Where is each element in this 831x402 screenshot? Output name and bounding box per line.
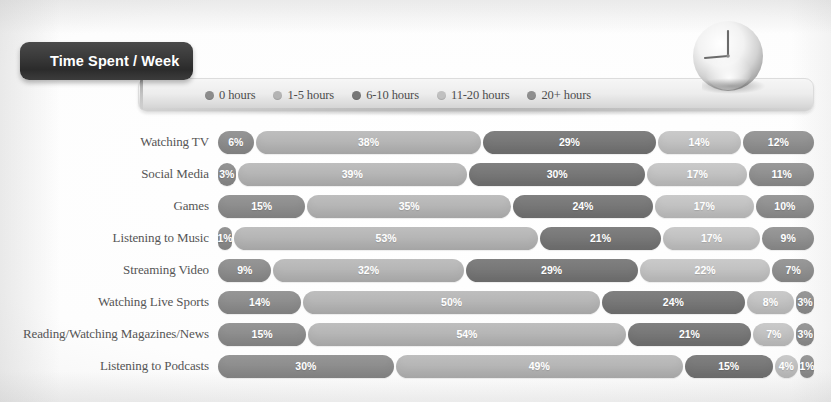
bar-segment-value: 30% [295,360,316,372]
bar-segment-value: 24% [663,296,684,308]
bar-segment-value: 1% [799,360,814,372]
legend-label: 20+ hours [541,88,591,103]
bar-segment[interactable]: 7% [753,323,794,346]
bar-segment[interactable]: 17% [647,163,747,186]
legend-item[interactable]: 20+ hours [527,88,591,103]
legend-item[interactable]: 1-5 hours [273,88,334,103]
bar-segment-value: 21% [679,328,700,340]
bar-segment[interactable]: 21% [540,227,661,250]
bar-segment[interactable]: 54% [308,323,626,346]
stacked-bar-chart: 0 hours1-5 hours6-10 hours11-20 hours20+… [0,0,831,402]
bar-segment-value: 29% [541,264,562,276]
bar-segment[interactable]: 50% [303,291,600,314]
bar-segment-value: 11% [771,168,791,180]
bar-segment[interactable]: 1% [218,227,232,250]
bar-segment-value: 15% [251,200,272,212]
chart-legend: 0 hours1-5 hours6-10 hours11-20 hours20+… [205,86,591,104]
chart-rows: Watching TV6%38%29%14%12%Social Media3%3… [0,126,831,382]
page-title: Time Spent / Week [20,53,179,69]
bar-segment-value: 14% [689,136,710,148]
bar-segment[interactable]: 15% [218,323,306,346]
bar-segment[interactable]: 22% [640,259,771,282]
bar-segment-value: 10% [774,200,795,212]
bar-segment[interactable]: 3% [218,163,236,186]
bar-segment-value: 30% [547,168,568,180]
bar-segment-value: 15% [718,360,739,372]
row-label: Reading/Watching Magazines/News [0,326,218,342]
bar-segment[interactable]: 38% [256,131,482,154]
bar-segment-value: 3% [798,328,813,340]
bar-segment[interactable]: 10% [756,195,814,218]
bar-segment[interactable]: 15% [218,195,305,218]
bar-segment-value: 1% [217,232,232,244]
legend-item[interactable]: 11-20 hours [437,88,510,103]
bar-segment[interactable]: 8% [747,291,795,314]
bar-segment-value: 7% [766,328,781,340]
title-tab-connector [140,78,143,110]
bar-segment[interactable]: 14% [658,131,741,154]
bar-segment-value: 17% [687,168,708,180]
bar-segment-value: 17% [694,200,715,212]
stacked-bar: 1%53%21%17%9% [218,227,814,250]
bar-segment[interactable]: 9% [218,259,271,282]
legend-item[interactable]: 0 hours [205,88,255,103]
bar-segment[interactable]: 1% [800,355,814,378]
bar-segment[interactable]: 35% [307,195,511,218]
legend-swatch-icon [527,91,536,100]
bar-segment[interactable]: 15% [685,355,773,378]
chart-title-tab: Time Spent / Week [20,42,193,80]
bar-segment-value: 9% [781,232,796,244]
row-label: Watching Live Sports [0,294,218,310]
bar-segment-value: 54% [456,328,477,340]
bar-segment[interactable]: 32% [273,259,463,282]
row-label: Listening to Podcasts [0,358,218,374]
row-label: Streaming Video [0,262,218,278]
bar-segment[interactable]: 49% [396,355,683,378]
bar-segment-value: 9% [237,264,252,276]
bar-segment[interactable]: 24% [602,291,745,314]
bar-segment[interactable]: 3% [796,323,814,346]
bar-segment[interactable]: 30% [218,355,394,378]
stacked-bar: 15%35%24%17%10% [218,195,814,218]
legend-item[interactable]: 6-10 hours [352,88,419,103]
bar-segment[interactable]: 29% [466,259,638,282]
bar-segment[interactable]: 17% [663,227,761,250]
legend-swatch-icon [437,91,446,100]
bar-segment[interactable]: 29% [483,131,655,154]
bar-segment[interactable]: 4% [775,355,798,378]
chart-row: Streaming Video9%32%29%22%7% [0,254,831,286]
bar-segment-value: 50% [441,296,462,308]
bar-segment-value: 32% [358,264,379,276]
bar-segment[interactable]: 17% [655,195,754,218]
bar-segment[interactable]: 21% [628,323,751,346]
bar-segment[interactable]: 39% [238,163,467,186]
bar-segment-value: 12% [768,136,789,148]
bar-segment-value: 49% [529,360,550,372]
bar-segment-value: 38% [358,136,379,148]
bar-segment[interactable]: 12% [743,131,814,154]
bar-segment-value: 7% [786,264,801,276]
legend-swatch-icon [205,91,214,100]
bar-segment[interactable]: 14% [218,291,301,314]
bar-segment[interactable]: 3% [796,291,814,314]
bar-segment-value: 24% [572,200,593,212]
bar-segment[interactable]: 30% [469,163,645,186]
chart-row: Listening to Podcasts30%49%15%4%1% [0,350,831,382]
bar-segment[interactable]: 24% [513,195,653,218]
bar-segment[interactable]: 6% [218,131,254,154]
clock-shadow [702,78,766,94]
row-label: Social Media [0,166,218,182]
bar-segment[interactable]: 7% [772,259,814,282]
chart-row: Listening to Music1%53%21%17%9% [0,222,831,254]
chart-row: Games15%35%24%17%10% [0,190,831,222]
bar-segment-value: 17% [701,232,722,244]
row-label: Watching TV [0,134,218,150]
row-label: Listening to Music [0,230,218,246]
bar-segment[interactable]: 9% [762,227,814,250]
bar-segment[interactable]: 53% [234,227,538,250]
legend-label: 11-20 hours [451,88,510,103]
legend-swatch-icon [273,91,282,100]
stacked-bar: 15%54%21%7%3% [218,323,814,346]
bar-segment[interactable]: 11% [749,163,814,186]
bar-segment-value: 53% [376,232,397,244]
